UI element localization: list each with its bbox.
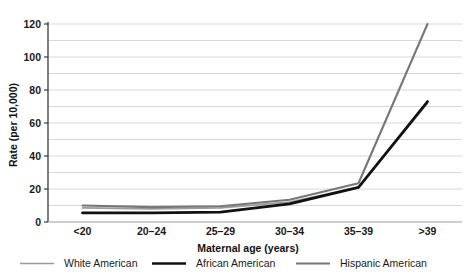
y-axis-title: Rate (per 10,000) xyxy=(7,83,19,167)
x-axis-title: Maternal age (years) xyxy=(197,242,299,254)
chart-figure: 020406080100120 <2020–2425–2930–3435–39>… xyxy=(0,0,472,277)
chart-legend: White AmericanAfrican AmericanHispanic A… xyxy=(20,257,427,269)
y-tick-label: 0 xyxy=(35,216,41,228)
x-tick-label: 30–34 xyxy=(275,225,304,237)
legend-label: Hispanic American xyxy=(340,257,427,269)
x-tick-label: <20 xyxy=(74,225,92,237)
y-tick-label: 40 xyxy=(29,150,41,162)
y-tick-label: 100 xyxy=(23,51,41,63)
chart-background xyxy=(0,0,472,277)
legend-label: White American xyxy=(64,257,138,269)
legend-label: African American xyxy=(196,257,276,269)
y-tick-label: 120 xyxy=(23,18,41,30)
y-tick-label: 20 xyxy=(29,183,41,195)
x-tick-label: >39 xyxy=(419,225,437,237)
y-tick-label: 80 xyxy=(29,84,41,96)
line-chart: 020406080100120 <2020–2425–2930–3435–39>… xyxy=(0,0,472,277)
x-tick-label: 20–24 xyxy=(137,225,166,237)
x-tick-label: 35–39 xyxy=(344,225,373,237)
x-tick-label: 25–29 xyxy=(206,225,235,237)
y-tick-label: 60 xyxy=(29,117,41,129)
